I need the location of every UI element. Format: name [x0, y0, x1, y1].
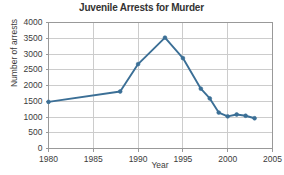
- series-line: [49, 38, 255, 119]
- x-tick-label: 1995: [165, 154, 201, 164]
- y-tick-label: 3000: [3, 49, 43, 59]
- y-tick-label: 1000: [3, 112, 43, 122]
- tick-marks: [46, 23, 273, 152]
- chart-figure: Juvenile Arrests for Murder Number of ar…: [0, 0, 283, 175]
- y-tick-label: 500: [3, 127, 43, 137]
- y-tick-label: 2500: [3, 64, 43, 74]
- x-tick-label: 1985: [75, 154, 111, 164]
- y-tick-label: 0: [3, 143, 43, 153]
- y-tick-label: 2000: [3, 80, 43, 90]
- y-tick-label: 3500: [3, 33, 43, 43]
- series-markers: [47, 36, 257, 120]
- x-tick-label: 2005: [255, 154, 284, 164]
- x-tick-label: 1980: [31, 154, 67, 164]
- x-tick-label: 1990: [120, 154, 156, 164]
- y-tick-label: 4000: [3, 17, 43, 27]
- y-tick-label: 1500: [3, 96, 43, 106]
- x-tick-label: 2000: [210, 154, 246, 164]
